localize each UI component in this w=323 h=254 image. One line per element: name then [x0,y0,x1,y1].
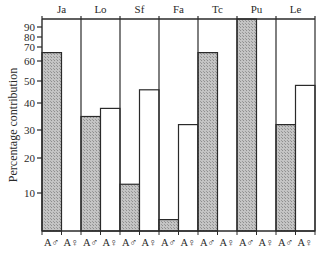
bar-tc-male [198,53,218,231]
group-label-fa: Fa [173,3,184,15]
bar-fa-female [179,125,199,231]
bar-pu-male [237,19,257,231]
bar-label: A♂ [278,237,293,248]
bar-label: A♂ [161,237,176,248]
bar-le-female [296,85,316,231]
bar-sf-male [120,184,140,231]
y-tick-label: 50 [24,75,36,87]
bar-lo-male [81,117,101,232]
bar-label: A♀ [298,237,313,248]
y-tick-label: 40 [24,97,36,109]
y-tick-label: 30 [24,124,36,136]
y-tick-label: 10 [24,187,36,199]
bar-label: A♂ [83,237,98,248]
group-label-sf: Sf [135,3,145,15]
group-label-ja: Ja [57,3,66,15]
bar-label: A♂ [44,237,59,248]
bar-label: A♀ [64,237,79,248]
bar-label: A♂ [239,237,254,248]
bar-label: A♀ [103,237,118,248]
bar-label: A♀ [142,237,157,248]
bar-label: A♀ [220,237,235,248]
group-label-le: Le [290,3,302,15]
y-tick-label: 90 [24,21,36,33]
bar-sf-female [140,90,160,231]
bar-label: A♀ [181,237,196,248]
y-axis-label: Percentage contribution [6,68,20,182]
bar-lo-female [101,108,121,231]
y-tick-label: 60 [24,55,36,67]
group-label-tc: Tc [212,3,223,15]
bar-label: A♂ [200,237,215,248]
chart: Percentage contribution 1020304050607080… [0,0,323,254]
bar-ja-male [42,53,62,231]
group-label-pu: Pu [251,3,263,15]
bar-le-male [276,125,296,231]
bar-label: A♀ [259,237,274,248]
y-tick-label: 20 [24,152,36,164]
bar-fa-male [159,220,179,231]
bar-label: A♂ [122,237,137,248]
group-label-lo: Lo [94,3,107,15]
